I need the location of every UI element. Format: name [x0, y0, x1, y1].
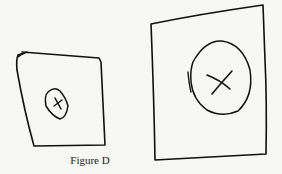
large-x-mark-icon [207, 71, 232, 94]
sketch-canvas [0, 0, 282, 174]
large-square-outline [151, 5, 266, 160]
large-square-panel [151, 5, 266, 160]
small-square-panel [17, 52, 105, 146]
large-oval [191, 41, 251, 114]
figure-caption: Figure D [62, 154, 118, 166]
small-square-outline [17, 52, 105, 146]
figure-d-diagram: Figure D [0, 0, 282, 174]
small-x-mark-icon [54, 98, 62, 109]
